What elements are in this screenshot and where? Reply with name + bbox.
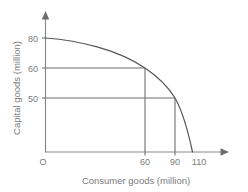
- x-axis-arrow-icon: [221, 148, 230, 155]
- y-axis-title: Capital goods (million): [11, 41, 22, 135]
- y-tick-label-50: 50: [28, 94, 38, 104]
- x-axis-title: Consumer goods (million): [82, 175, 190, 186]
- origin-label: O: [39, 157, 46, 167]
- x-tick-label-90: 90: [170, 157, 180, 167]
- chart-canvas: 80 60 50 O 60 90 110 Consumer goods (mil…: [0, 0, 248, 192]
- y-tick-label-60: 60: [28, 64, 38, 74]
- ppf-curve: [46, 38, 193, 152]
- y-axis-arrow-icon: [42, 11, 49, 20]
- guide-lines-point-a: [46, 68, 146, 152]
- y-tick-label-80: 80: [28, 34, 38, 44]
- x-tick-label-110: 110: [192, 157, 206, 167]
- guide-lines-point-b: [46, 98, 176, 152]
- ppf-chart: 80 60 50 O 60 90 110 Consumer goods (mil…: [0, 0, 248, 192]
- axes-group: [42, 11, 229, 156]
- x-tick-label-60: 60: [140, 157, 150, 167]
